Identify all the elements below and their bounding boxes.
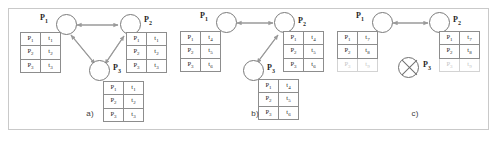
cell-process: P2 — [181, 45, 201, 58]
panel-a-caption: a) — [10, 109, 170, 118]
edge-p3-p2-back — [257, 35, 278, 63]
cell-process: P1 — [181, 32, 201, 45]
table-p1: P1t1P2t2P3t3 — [20, 32, 61, 73]
cell-process: P1 — [440, 32, 460, 45]
table-p1-body: P1t1P2t2P3t3 — [21, 33, 61, 73]
panel-b: P1 P2 P3 P1t4P2t5P3t6 P1t4P2t5P3t6 P1t4P… — [175, 0, 335, 122]
cell-timestamp: t5 — [201, 45, 221, 58]
node-p1[interactable] — [372, 12, 393, 33]
panel-a: P1 P2 P3 P1t1P2t2P3t3 P1t1P2t2P3t3 P1t1P… — [10, 0, 170, 122]
cell-timestamp: t2 — [124, 95, 144, 108]
edge-p2-p3-fwd — [257, 35, 278, 63]
table-p1-body: P1t4P2t5P3t6 — [181, 32, 221, 72]
cell-timestamp: t4 — [201, 32, 221, 45]
cell-process: P3 — [284, 58, 304, 71]
cell-process: P3 — [127, 59, 147, 72]
node-p1-label: P1 — [200, 11, 208, 22]
node-p1-label: P1 — [40, 13, 48, 24]
node-p3-label: P3 — [113, 63, 121, 74]
node-p2-label: P2 — [298, 16, 306, 27]
node-p3[interactable] — [89, 60, 110, 81]
cell-timestamp: t6 — [304, 58, 324, 71]
table-p1-body: P1t7P2t8P3t9 — [338, 32, 378, 72]
table-row: P1t1 — [21, 33, 61, 46]
panel-c-caption: c) — [335, 109, 495, 118]
table-row: P3t9 — [440, 58, 480, 71]
table-p1: P1t7P2t8P3t9 — [337, 31, 378, 72]
node-p1[interactable] — [216, 12, 237, 33]
table-p1: P1t4P2t5P3t6 — [180, 31, 221, 72]
cell-timestamp: t8 — [358, 45, 378, 58]
node-p3-label: P3 — [423, 60, 431, 71]
table-p2: P1t4P2t5P3t6 — [283, 31, 324, 72]
node-p2[interactable] — [274, 12, 295, 33]
cell-timestamp: t4 — [279, 80, 299, 93]
cell-process: P2 — [440, 45, 460, 58]
edge-p1-p3-fwd — [71, 35, 95, 64]
node-p2-label: P2 — [144, 15, 152, 26]
cell-process: P2 — [127, 46, 147, 59]
cell-timestamp: t4 — [304, 32, 324, 45]
table-row: P1t1 — [127, 33, 167, 46]
table-row: P3t6 — [284, 58, 324, 71]
node-p3-label: P3 — [267, 63, 275, 74]
cell-timestamp: t7 — [358, 32, 378, 45]
cell-process: P1 — [21, 33, 41, 46]
panel-b-caption: b) — [175, 109, 335, 118]
node-p3[interactable] — [243, 60, 264, 81]
table-row: P3t6 — [181, 58, 221, 71]
table-p2-body: P1t7P2t8P3t9 — [440, 32, 480, 72]
cell-timestamp: t2 — [147, 46, 167, 59]
table-row: P2t5 — [284, 45, 324, 58]
table-row: P3t3 — [127, 59, 167, 72]
cell-process: P1 — [127, 33, 147, 46]
table-row: P1t7 — [338, 32, 378, 45]
table-row: P2t2 — [127, 46, 167, 59]
cell-timestamp: t2 — [41, 46, 61, 59]
cell-timestamp: t1 — [147, 33, 167, 46]
table-row: P3t9 — [338, 58, 378, 71]
cell-timestamp: t8 — [460, 45, 480, 58]
cell-process: P3 — [181, 58, 201, 71]
panel-c: P1 P2 P3 P1t7P2t8P3t9 P1t7P2t8P3t9 c) — [335, 0, 495, 122]
cell-process: P1 — [284, 32, 304, 45]
cell-process: P1 — [104, 82, 124, 95]
edge-p3-p1-back — [71, 35, 95, 64]
table-row: P1t4 — [284, 32, 324, 45]
cell-timestamp: t3 — [147, 59, 167, 72]
table-row: P3t3 — [21, 59, 61, 72]
cell-timestamp: t3 — [41, 59, 61, 72]
cell-process: P3 — [440, 58, 460, 71]
cell-timestamp: t1 — [124, 82, 144, 95]
cell-process: P1 — [259, 80, 279, 93]
cell-process: P2 — [338, 45, 358, 58]
cell-process: P2 — [284, 45, 304, 58]
cell-process: P2 — [21, 46, 41, 59]
table-row: P2t5 — [181, 45, 221, 58]
table-p2-body: P1t4P2t5P3t6 — [284, 32, 324, 72]
table-row: P1t4 — [181, 32, 221, 45]
cell-process: P2 — [259, 93, 279, 106]
node-p2-label: P2 — [453, 15, 461, 26]
cell-timestamp: t5 — [304, 45, 324, 58]
table-row: P2t8 — [440, 45, 480, 58]
cell-timestamp: t1 — [41, 33, 61, 46]
edge-p3-p2-back — [105, 36, 124, 64]
cell-process: P2 — [104, 95, 124, 108]
cell-process: P1 — [338, 32, 358, 45]
figure-root: P1 P2 P3 P1t1P2t2P3t3 P1t1P2t2P3t3 P1t1P… — [0, 0, 503, 143]
cell-timestamp: t6 — [201, 58, 221, 71]
cell-timestamp: t5 — [279, 93, 299, 106]
edge-p2-p3-fwd — [105, 36, 124, 64]
cell-process: P3 — [21, 59, 41, 72]
table-row: P2t2 — [104, 95, 144, 108]
node-p3-crossed-out-icon[interactable] — [398, 57, 419, 78]
table-p2: P1t1P2t2P3t3 — [126, 32, 167, 73]
table-p2-body: P1t1P2t2P3t3 — [127, 33, 167, 73]
table-row: P2t5 — [259, 93, 299, 106]
table-row: P2t8 — [338, 45, 378, 58]
cell-timestamp: t9 — [358, 58, 378, 71]
node-p2[interactable] — [429, 12, 450, 33]
cell-timestamp: t7 — [460, 32, 480, 45]
table-row: P2t2 — [21, 46, 61, 59]
